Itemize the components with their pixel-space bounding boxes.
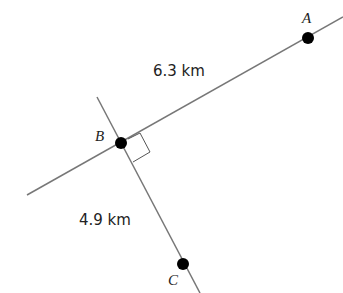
label-a: A	[302, 10, 311, 27]
right-angle-marker	[128, 133, 150, 162]
label-b: B	[95, 128, 104, 145]
diagram: A B C 6.3 km 4.9 km	[0, 0, 343, 293]
line-ab	[27, 17, 343, 195]
point-b-dot	[115, 137, 127, 149]
distance-bc: 4.9 km	[79, 211, 131, 229]
distance-ab: 6.3 km	[153, 62, 205, 80]
label-c: C	[168, 272, 178, 289]
point-c-dot	[177, 258, 189, 270]
geometry-lines	[0, 0, 343, 293]
point-a-dot	[302, 32, 314, 44]
